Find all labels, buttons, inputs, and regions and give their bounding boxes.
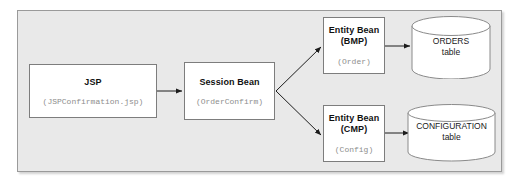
diagram-canvas: JSP (JSPConfirmation.jsp) Session Bean (… [0, 0, 517, 182]
node-entity-bean-bmp[interactable]: Entity Bean (BMP) (Order) [323, 17, 385, 74]
node-session-bean-code: (OrderConfirm) [196, 97, 263, 106]
node-configuration-table-line2: table [407, 132, 496, 143]
node-entity-bean-cmp-title-line1: Entity Bean [329, 113, 380, 123]
node-orders-table-line2: table [411, 47, 491, 58]
node-orders-table-line1: ORDERS [411, 36, 491, 47]
node-orders-table[interactable]: ORDERS table [411, 16, 491, 79]
node-jsp-title: JSP [84, 77, 101, 88]
node-entity-bean-bmp-title: Entity Bean (BMP) [329, 25, 380, 47]
node-entity-bean-bmp-code: (Order) [337, 57, 371, 66]
node-jsp-code: (JSPConfirmation.jsp) [43, 97, 144, 106]
node-orders-table-label: ORDERS table [411, 36, 491, 58]
node-entity-bean-bmp-title-line1: Entity Bean [329, 25, 380, 35]
node-jsp[interactable]: JSP (JSPConfirmation.jsp) [29, 64, 157, 118]
node-configuration-table[interactable]: CONFIGURATION table [407, 104, 496, 162]
node-session-bean-title: Session Bean [199, 77, 259, 88]
node-entity-bean-cmp-subtitle: (CMP) [329, 124, 380, 135]
node-entity-bean-cmp-title: Entity Bean (CMP) [329, 113, 380, 135]
node-configuration-table-label: CONFIGURATION table [407, 121, 496, 143]
node-entity-bean-bmp-subtitle: (BMP) [329, 36, 380, 47]
node-configuration-table-line1: CONFIGURATION [407, 121, 496, 132]
node-entity-bean-cmp-code: (Config) [335, 145, 373, 154]
node-entity-bean-cmp[interactable]: Entity Bean (CMP) (Config) [323, 105, 385, 162]
node-session-bean[interactable]: Session Bean (OrderConfirm) [184, 62, 275, 120]
